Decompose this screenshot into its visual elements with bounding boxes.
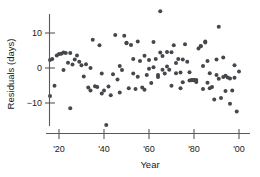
data-point	[73, 58, 77, 62]
data-point	[120, 68, 124, 72]
data-point	[77, 60, 81, 64]
data-point	[237, 70, 241, 74]
data-point	[129, 43, 133, 47]
data-point	[181, 80, 185, 84]
data-point	[131, 57, 135, 61]
data-point	[194, 80, 198, 84]
data-point	[136, 75, 140, 79]
data-point	[95, 85, 99, 89]
data-point	[147, 58, 151, 62]
data-point	[206, 81, 210, 85]
data-point	[62, 68, 66, 72]
data-point	[217, 25, 221, 29]
data-point	[138, 59, 142, 63]
y-axis-title: Residuals (days)	[5, 39, 16, 110]
data-point	[163, 72, 167, 76]
data-points-layer	[48, 9, 241, 127]
data-point	[116, 78, 120, 82]
x-tick-label: '60	[143, 144, 155, 154]
data-point	[149, 81, 153, 85]
data-point	[71, 63, 75, 67]
x-tick-label: '80	[188, 144, 200, 154]
x-tick-label: '20	[53, 144, 65, 154]
data-point	[50, 57, 54, 61]
data-point	[107, 85, 111, 89]
data-point	[188, 70, 192, 74]
data-point	[183, 42, 187, 46]
data-point	[118, 64, 122, 68]
data-point	[75, 53, 79, 57]
data-point	[134, 87, 138, 91]
data-point	[235, 109, 239, 113]
data-point	[161, 68, 165, 72]
data-point	[201, 87, 205, 91]
data-point	[221, 56, 225, 60]
data-point	[181, 58, 185, 62]
data-point	[165, 50, 169, 54]
y-tick-label: 10	[32, 28, 42, 38]
data-point	[158, 9, 162, 13]
data-point	[91, 38, 95, 42]
data-point	[68, 51, 72, 55]
data-point	[174, 71, 178, 75]
data-point	[136, 39, 140, 43]
data-point	[217, 77, 221, 81]
data-point	[89, 88, 93, 92]
data-point	[170, 50, 174, 54]
data-point	[127, 86, 131, 90]
data-point	[208, 86, 212, 90]
data-point	[161, 54, 165, 58]
data-point	[158, 51, 162, 55]
data-point	[145, 73, 149, 77]
data-point	[122, 34, 126, 38]
data-point	[118, 91, 122, 95]
data-point	[82, 74, 86, 78]
data-point	[199, 44, 203, 48]
data-point	[152, 65, 156, 69]
data-point	[156, 73, 160, 77]
data-point	[84, 62, 88, 66]
data-point	[80, 63, 84, 67]
data-point	[104, 123, 108, 127]
data-point	[111, 72, 115, 76]
data-point	[152, 40, 156, 44]
data-point	[98, 43, 102, 47]
data-point	[233, 76, 237, 80]
data-point	[172, 43, 176, 47]
data-point	[206, 59, 210, 63]
data-point	[179, 86, 183, 90]
data-point	[143, 54, 147, 58]
data-point	[203, 40, 207, 44]
y-tick-label: −10	[27, 98, 42, 108]
data-point	[230, 88, 234, 92]
data-point	[154, 57, 158, 61]
data-point	[212, 98, 216, 102]
data-point	[102, 88, 106, 92]
data-point	[228, 77, 232, 81]
data-point	[170, 84, 174, 88]
data-point	[100, 72, 104, 76]
data-point	[228, 102, 232, 106]
data-point	[219, 96, 223, 100]
x-axis-title: Year	[140, 159, 159, 170]
data-point	[66, 61, 70, 65]
data-point	[179, 71, 183, 75]
data-point	[68, 106, 72, 110]
data-point	[215, 73, 219, 77]
x-axis-ticks: '20'40'60'80'00	[53, 129, 245, 154]
residual-scatter-figure: 100−10 '20'40'60'80'00 Residuals (days) …	[0, 0, 260, 177]
data-point	[147, 67, 151, 71]
y-axis: 100−10	[27, 14, 55, 126]
scatter-plot: 100−10 '20'40'60'80'00 Residuals (days) …	[0, 0, 260, 177]
data-point	[53, 84, 57, 88]
data-point	[89, 66, 93, 70]
data-point	[201, 64, 205, 68]
data-point	[185, 60, 189, 64]
data-point	[109, 93, 113, 97]
data-point	[208, 71, 212, 75]
data-point	[143, 88, 147, 92]
data-point	[131, 72, 135, 76]
x-axis: '20'40'60'80'00	[46, 129, 250, 154]
data-point	[176, 57, 180, 61]
data-point	[215, 58, 219, 62]
